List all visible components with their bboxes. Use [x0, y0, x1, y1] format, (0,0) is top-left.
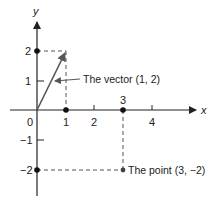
- vector-label: The vector (1, 2): [83, 73, 160, 85]
- y-axis-label: y: [32, 5, 40, 17]
- y-tick-label-2: 2: [25, 45, 31, 57]
- x-tick-label-4: 4: [149, 116, 155, 128]
- x-tick-label-1: 1: [63, 116, 69, 128]
- point-label: The point (3, −2): [128, 164, 205, 176]
- x-axis-label: x: [200, 104, 207, 116]
- x-tick-label-2: 2: [91, 116, 97, 128]
- y-axis-dot-neg2: [34, 167, 40, 173]
- y-tick-label-neg1: −1: [20, 134, 33, 146]
- x-axis-dot-3: [120, 107, 126, 113]
- coordinate-plane-diagram: x y 0 1 2 3 4 2 1 −1 −2 The vector (1, 2…: [0, 0, 218, 205]
- y-tick-label-neg2: −2: [20, 164, 33, 176]
- vector-label-pointer: [55, 79, 80, 81]
- x-axis-dot-1: [63, 107, 69, 113]
- x-tick-label-3: 3: [120, 94, 126, 106]
- point-3-neg2: [121, 168, 126, 173]
- origin-label: 0: [27, 116, 33, 128]
- y-tick-label-1: 1: [25, 75, 31, 87]
- y-axis-dot-2: [34, 48, 40, 54]
